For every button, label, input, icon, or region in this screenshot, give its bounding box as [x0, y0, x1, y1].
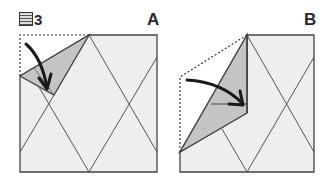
panel-b — [180, 35, 314, 172]
diagram-canvas — [0, 0, 332, 186]
paper-a — [20, 35, 157, 172]
panel-a — [20, 35, 157, 172]
